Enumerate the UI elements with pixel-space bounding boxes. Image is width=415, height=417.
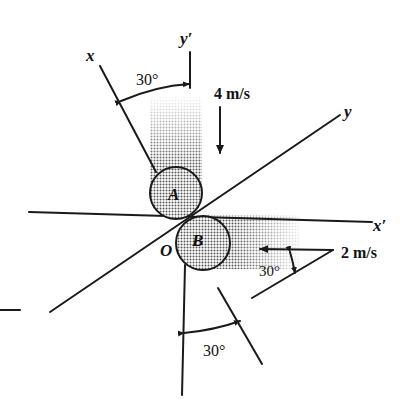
axis-y-label: y [342, 102, 352, 121]
origin-label: O [160, 241, 172, 260]
ball-a-label: A [167, 185, 179, 204]
axis-y-prime-label: y′ [178, 29, 192, 48]
velocity-b-arrow [260, 249, 333, 250]
y-prime-axis-bottom-line [182, 265, 185, 395]
axis-x-prime-label: x′ [372, 216, 386, 235]
collision-diagram: x y′ y x′ O A B 4 m/s 2 m/s 30° 30° 30° [0, 0, 415, 417]
angle-velocity-b-label: 30° [259, 263, 280, 279]
axis-x-label: x [85, 46, 95, 65]
velocity-a-label: 4 m/s [214, 85, 250, 102]
angle-top-label: 30° [136, 71, 158, 88]
ball-b-label: B [191, 231, 203, 250]
angle-bottom-label: 30° [203, 342, 225, 359]
angle-arc-bottom [184, 321, 240, 333]
velocity-b-label: 2 m/s [341, 244, 377, 261]
